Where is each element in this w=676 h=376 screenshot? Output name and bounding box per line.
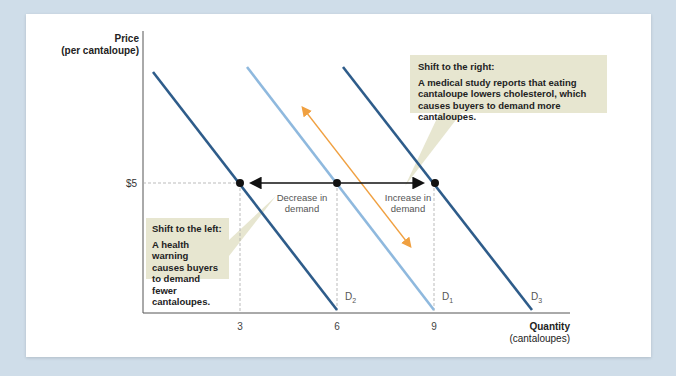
- right-callout-body: A medical study reports that eating cant…: [418, 77, 599, 123]
- label-d1: D1: [442, 291, 453, 304]
- right-callout-pointer: [405, 112, 462, 186]
- left-callout-pointer: [229, 196, 276, 256]
- label-d2: D2: [345, 291, 356, 304]
- point-d3: [431, 179, 439, 187]
- point-d2: [236, 179, 244, 187]
- label-d3: D3: [531, 291, 542, 304]
- right-callout: Shift to the right: A medical study repo…: [410, 55, 607, 113]
- decrease-label-line1: Decrease in: [277, 192, 328, 203]
- point-d1: [333, 179, 341, 187]
- curve-d1: [247, 67, 434, 310]
- right-callout-title: Shift to the right:: [418, 61, 599, 73]
- increase-label-line1: Increase in: [385, 192, 431, 203]
- q-tick-6: 6: [334, 321, 340, 332]
- y-axis-label-line1: Price: [115, 33, 140, 44]
- x-axis-label-line2: (cantaloupes): [509, 333, 570, 344]
- decrease-label-line2: demand: [285, 203, 319, 214]
- q-tick-9: 9: [431, 321, 437, 332]
- y-axis-label-line2: (per cantaloupe): [61, 45, 139, 56]
- price-tick: $5: [126, 178, 138, 189]
- increase-label-line2: demand: [391, 203, 425, 214]
- left-callout-body: A health warning causes buyers to demand…: [152, 239, 223, 308]
- q-tick-3: 3: [237, 321, 243, 332]
- x-axis-label-line1: Quantity: [529, 321, 570, 332]
- shift-arrow-icon: [303, 108, 410, 246]
- left-callout-title: Shift to the left:: [152, 223, 223, 235]
- left-callout: Shift to the left: A health warning caus…: [146, 218, 229, 279]
